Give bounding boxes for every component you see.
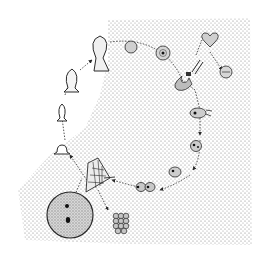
stalk-medium-2	[64, 69, 79, 92]
cell-cluster	[113, 213, 129, 234]
budding-cell-2	[191, 141, 202, 152]
round-cell-1	[125, 41, 137, 53]
ring-cell	[220, 66, 232, 78]
round-cell-2	[156, 46, 170, 60]
stalk-large	[93, 36, 109, 71]
stalk-medium-1	[57, 104, 67, 121]
large-cell	[47, 192, 93, 238]
life-cycle-figure	[0, 0, 270, 271]
